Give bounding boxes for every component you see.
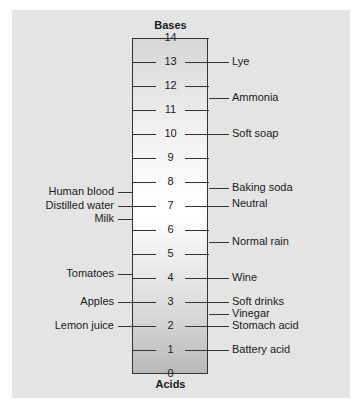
connector-milk (118, 219, 132, 220)
connector-soft-drinks (209, 302, 229, 303)
connector-vinegar (209, 314, 229, 315)
connector-normal-rain (209, 242, 229, 243)
label-lye: Lye (232, 55, 249, 68)
label-baking-soda: Baking soda (232, 181, 293, 194)
connector-stomach-acid (209, 326, 229, 327)
connector-lye (209, 62, 229, 63)
label-lemon-juice: Lemon juice (55, 319, 114, 332)
label-soft-soap: Soft soap (232, 127, 278, 140)
connector-lemon-juice (118, 326, 132, 327)
label-ammonia: Ammonia (232, 91, 278, 104)
label-battery-acid: Battery acid (232, 343, 290, 356)
label-tomatoes: Tomatoes (66, 267, 114, 280)
connector-tomatoes (118, 274, 132, 275)
label-neutral: Neutral (232, 197, 267, 210)
label-human-blood: Human blood (49, 185, 114, 198)
label-apples: Apples (80, 295, 114, 308)
connector-baking-soda (209, 188, 229, 189)
bases-title: Bases (132, 19, 209, 31)
connector-wine (209, 278, 229, 279)
connector-battery-acid (209, 350, 229, 351)
connector-soft-soap (209, 134, 229, 135)
connector-apples (118, 302, 132, 303)
label-distilled-water: Distilled water (46, 199, 114, 212)
label-wine: Wine (232, 271, 257, 284)
connector-human-blood (118, 192, 132, 193)
connector-ammonia (209, 98, 229, 99)
label-normal-rain: Normal rain (232, 235, 289, 248)
acids-title: Acids (132, 378, 209, 390)
label-stomach-acid: Stomach acid (232, 319, 299, 332)
connector-distilled-water (118, 206, 132, 207)
connector-neutral (209, 206, 229, 207)
label-milk: Milk (94, 212, 114, 225)
